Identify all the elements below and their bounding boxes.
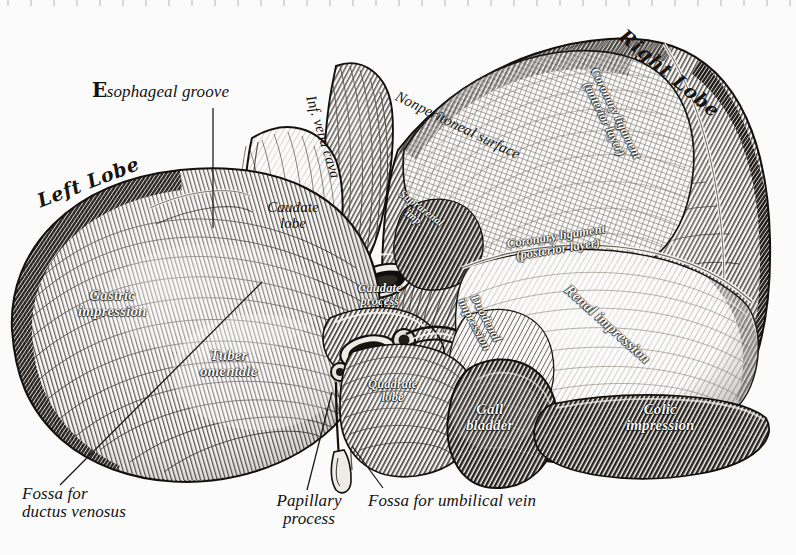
label-gastric-impression: Gastric impression: [78, 288, 147, 320]
label-esophageal-groove: Esophageal groove: [92, 80, 229, 101]
label-caudate-lobe: Caudate lobe: [252, 200, 334, 232]
label-tuber-omentale: Tuber omentale: [200, 348, 257, 380]
label-papillary-process-line2: process: [248, 510, 370, 528]
label-papillary-process: Papillary process: [248, 492, 370, 528]
label-gastric-impression-line1: Gastric: [78, 288, 147, 304]
label-quadrate-lobe-line1: Quadrate: [368, 378, 417, 391]
label-tuber-omentale-line2: omentale: [200, 364, 257, 380]
label-quadrate-lobe-line2: lobe: [368, 391, 417, 404]
label-colic-impression-line1: Colic: [626, 402, 695, 418]
label-colic-impression: Colic impression: [626, 402, 695, 434]
label-fossa-ductus-venosus: Fossa for ductus venosus: [22, 485, 126, 521]
label-caudate-lobe-line1: Caudate: [252, 200, 334, 216]
liver-anatomy-figure: Esophageal groove Left Lobe Right Lobe C…: [0, 0, 796, 555]
label-caudate-process: Caudate process: [358, 282, 402, 309]
label-esophageal-groove-rest: sophageal groove: [107, 82, 229, 101]
label-esophageal-groove-initial: E: [92, 78, 107, 102]
label-gastric-impression-line2: impression: [78, 304, 147, 320]
label-quadrate-lobe: Quadrate lobe: [368, 378, 417, 405]
label-fossa-umbilical-vein: Fossa for umbilical vein: [368, 492, 536, 510]
label-gall-bladder-line2: bladder: [466, 418, 513, 434]
label-caudate-process-line1: Caudate: [358, 282, 402, 295]
label-caudate-process-line2: process: [358, 295, 402, 308]
label-papillary-process-line1: Papillary: [248, 492, 370, 510]
label-tuber-omentale-line1: Tuber: [200, 348, 257, 364]
label-fossa-ductus-venosus-line1: Fossa for: [22, 485, 126, 503]
label-colic-impression-line2: impression: [626, 418, 695, 434]
scan-artifact-top-edge: [0, 0, 796, 6]
label-gall-bladder-line1: Gall: [466, 402, 513, 418]
label-caudate-lobe-line2: lobe: [252, 216, 334, 232]
label-fossa-ductus-venosus-line2: ductus venosus: [22, 503, 126, 521]
label-gall-bladder: Gall bladder: [466, 402, 513, 434]
